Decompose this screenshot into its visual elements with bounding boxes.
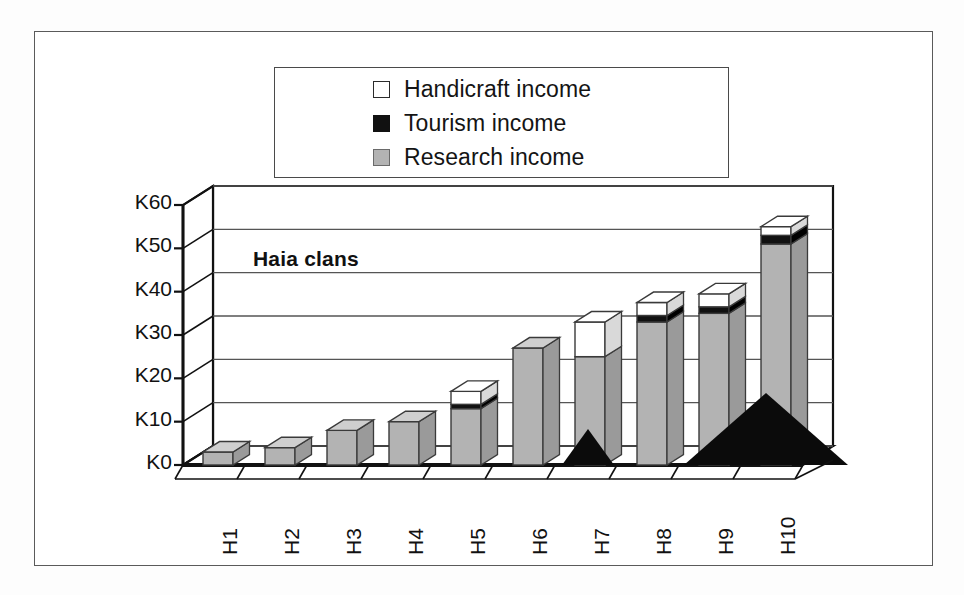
x-tick-label: H10	[776, 516, 800, 555]
x-axis-labels: H1H2H3H4H5H6H7H8H9H10	[0, 0, 964, 595]
x-tick-label: H4	[404, 528, 428, 555]
x-tick-label: H6	[528, 528, 552, 555]
x-tick-label: H8	[652, 528, 676, 555]
x-tick-label: H1	[218, 528, 242, 555]
x-tick-label: H5	[466, 528, 490, 555]
chart-page: Handicraft income Tourism income Researc…	[0, 0, 964, 595]
x-tick-label: H3	[342, 528, 366, 555]
x-tick-label: H2	[280, 528, 304, 555]
x-tick-label: H9	[714, 528, 738, 555]
x-tick-label: H7	[590, 528, 614, 555]
